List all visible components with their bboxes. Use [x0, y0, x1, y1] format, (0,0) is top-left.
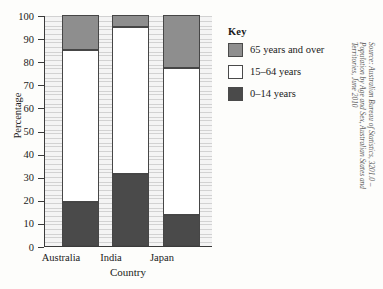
bar-segment-65-and-over[interactable]	[62, 15, 99, 50]
legend-item-0-14[interactable]: 0–14 years	[228, 87, 338, 101]
bar-segment-0-14[interactable]	[112, 174, 149, 246]
legend-swatch-icon	[228, 65, 243, 79]
bar-segment-65-and-over[interactable]	[112, 15, 149, 27]
y-axis-tick-label: 0	[4, 242, 34, 253]
y-axis-tick-label: 20	[4, 195, 34, 206]
legend-item-15-64[interactable]: 15–64 years	[228, 65, 338, 79]
bar-segment-0-14[interactable]	[62, 202, 99, 246]
y-axis-tick-label: 10	[4, 218, 34, 229]
bar-segment-0-14[interactable]	[163, 215, 200, 246]
y-axis-tick-label: 90	[4, 34, 34, 45]
bar-segment-65-and-over[interactable]	[163, 15, 200, 68]
bar-segment-15-64[interactable]	[163, 68, 200, 215]
bar-segment-15-64[interactable]	[112, 27, 149, 175]
chart-title-remnant	[44, 0, 234, 3]
y-axis-tick-mark	[38, 247, 44, 248]
y-axis-tick-label: 100	[4, 11, 34, 22]
y-axis-title: Percentage	[12, 71, 23, 161]
legend-title: Key	[228, 26, 338, 37]
legend-item-label: 15–64 years	[250, 66, 301, 78]
bar-segment-15-64[interactable]	[62, 50, 99, 202]
legend-item-label: 65 years and over	[250, 44, 324, 56]
source-note: Source: Australian Bureau of Statistics,…	[349, 42, 375, 192]
legend: Key 65 years and over 15–64 years 0–14 y…	[228, 26, 338, 109]
legend-swatch-icon	[228, 43, 243, 57]
legend-item-65-and-over[interactable]: 65 years and over	[228, 43, 338, 57]
legend-item-label: 0–14 years	[250, 88, 296, 100]
x-axis-title: Country	[44, 266, 212, 278]
y-axis-tick-label: 30	[4, 172, 34, 183]
y-axis-tick-label: 80	[4, 57, 34, 68]
stacked-bar-chart: 100 90 80 70 60 50 40 30 20 10 0 Percent…	[0, 0, 383, 289]
legend-swatch-icon	[228, 87, 243, 101]
x-axis-label-japan: Japan	[122, 252, 202, 264]
plot-area	[44, 16, 212, 247]
